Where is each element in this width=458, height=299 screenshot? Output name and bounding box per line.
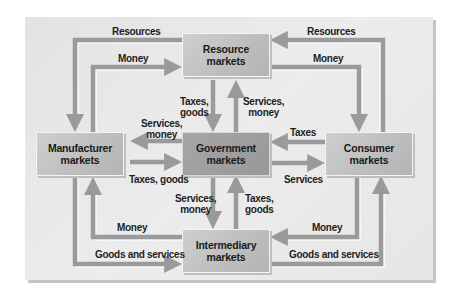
label-intermediary-to-gov: Taxes, goods	[245, 193, 274, 215]
label-gov-to-manufacturer: Services, money	[141, 118, 182, 140]
label-gov-to-resource: Services, money	[243, 96, 284, 118]
label-resources-top-right: Resources	[307, 26, 355, 37]
label-goods-bottom-right: Goods and services	[289, 249, 379, 260]
node-consumer-markets: Consumer markets	[325, 132, 413, 176]
label-goods-bottom-left: Goods and services	[95, 249, 185, 260]
label-money-bottom-right: Money	[312, 222, 342, 233]
label-money-top-left: Money	[118, 53, 148, 64]
label-money-top-right: Money	[313, 53, 343, 64]
label-resource-to-gov: Taxes, goods	[180, 96, 209, 118]
node-government-markets: Government markets	[182, 132, 270, 176]
label-gov-to-consumer: Services	[284, 174, 323, 185]
label-manufacturer-to-gov: Taxes, goods	[129, 174, 189, 185]
label-gov-to-intermediary: Services, money	[175, 193, 216, 215]
label-money-bottom-left: Money	[117, 222, 147, 233]
node-intermediary-markets: Intermediary markets	[182, 229, 270, 273]
label-resources-top-left: Resources	[112, 26, 160, 37]
node-resource-markets: Resource markets	[182, 33, 270, 77]
label-consumer-to-gov: Taxes	[290, 127, 316, 138]
node-manufacturer-markets: Manufacturer markets	[36, 132, 124, 176]
